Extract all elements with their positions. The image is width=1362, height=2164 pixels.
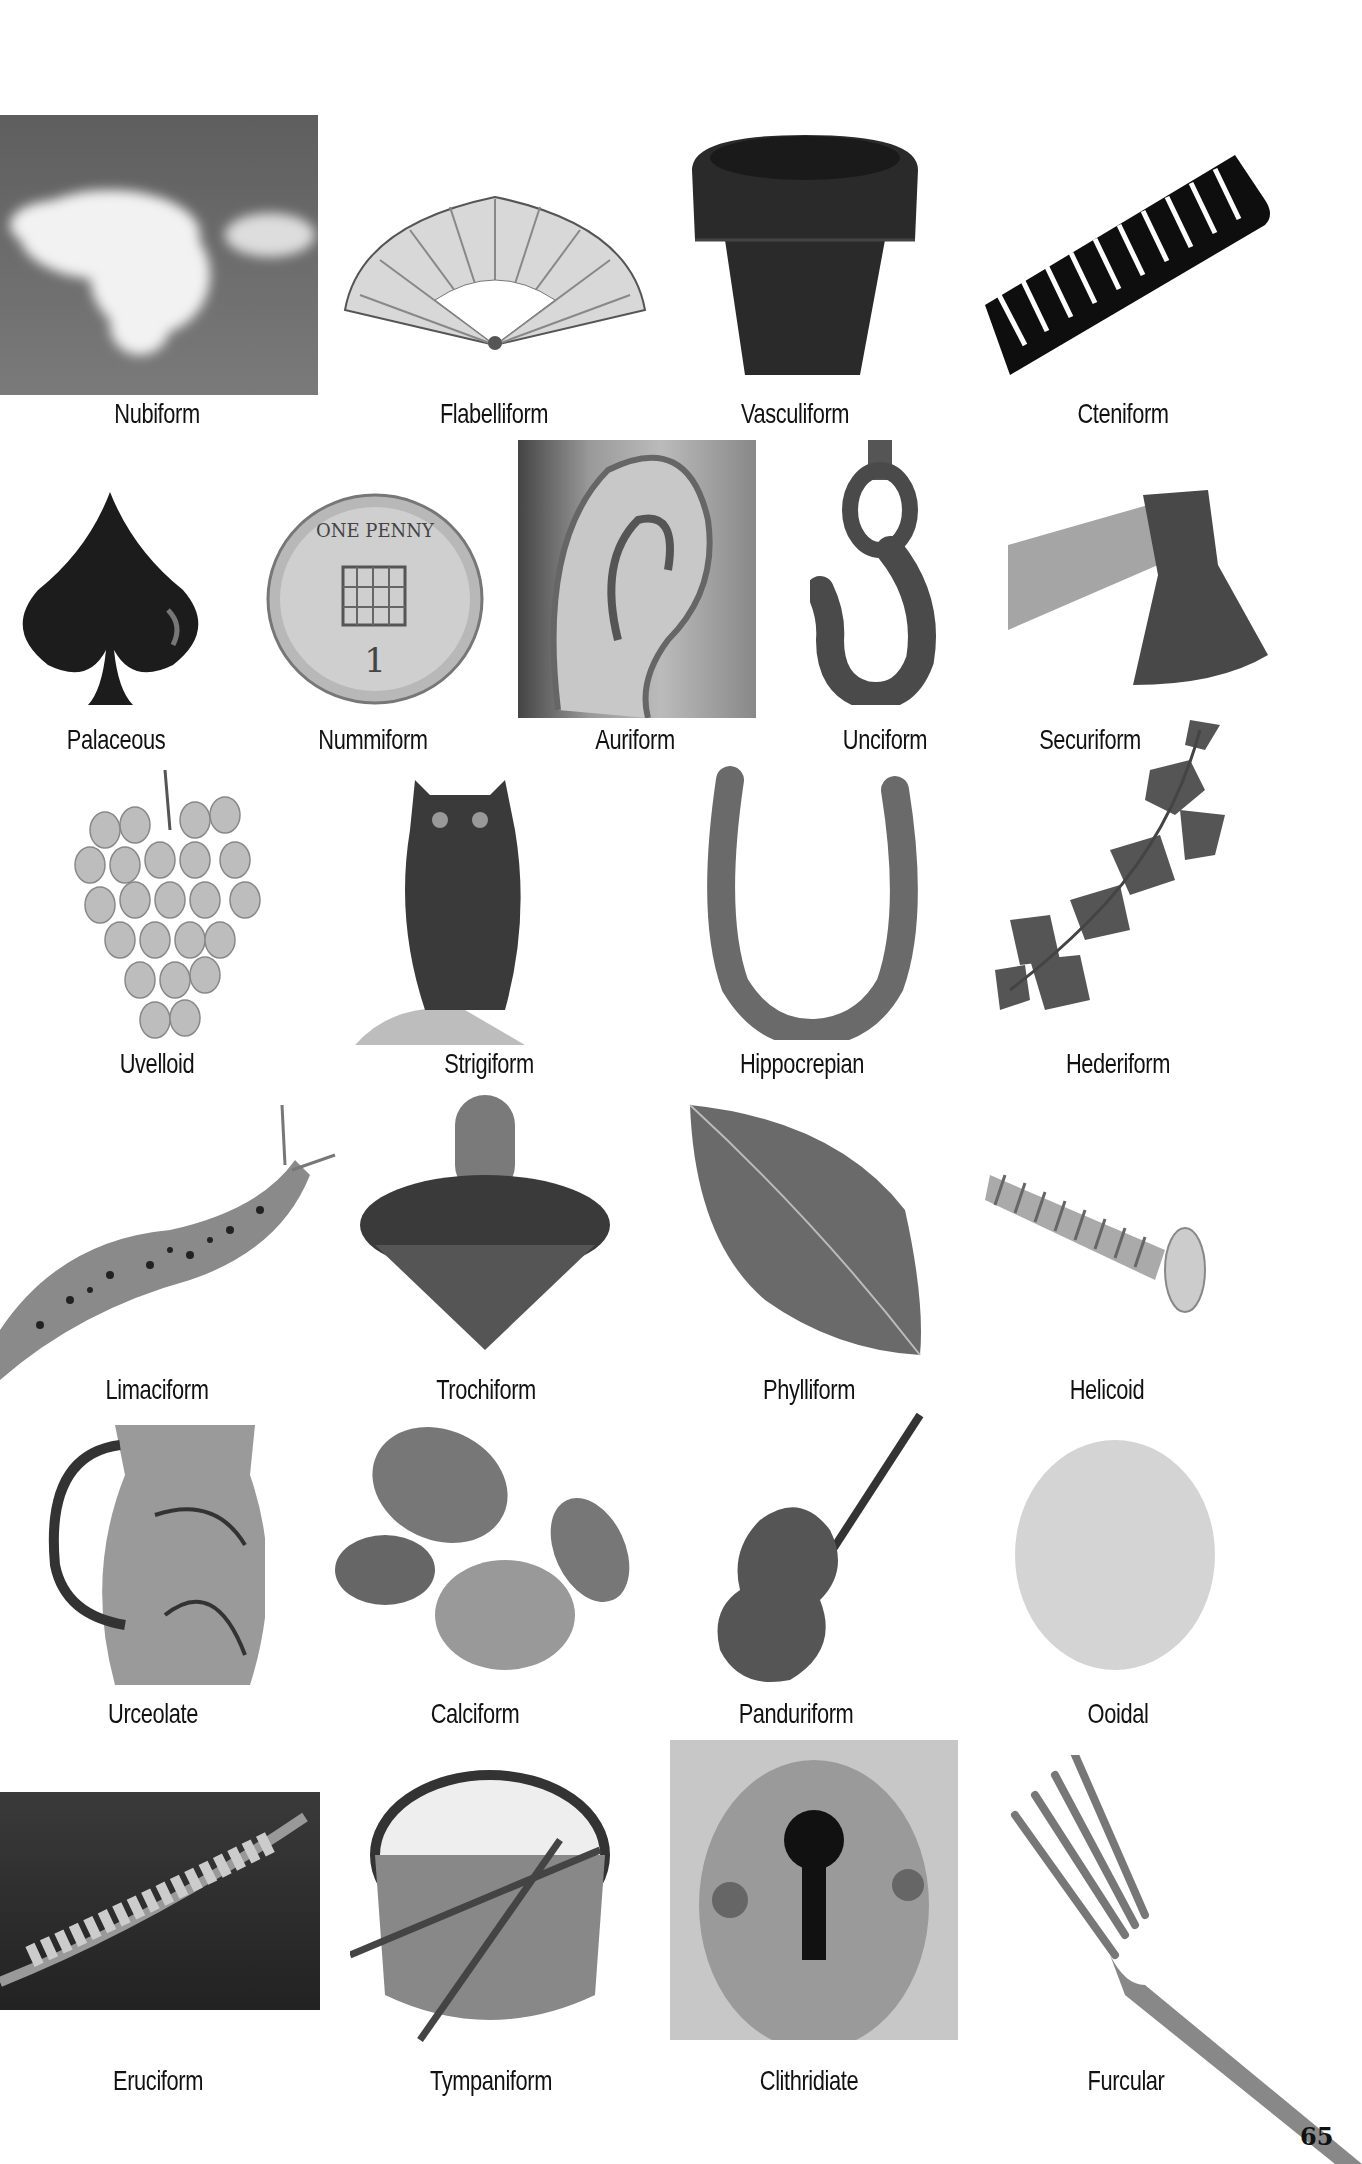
hook-image: [810, 440, 970, 705]
label-flabelliform: Flabelliform: [425, 398, 564, 430]
label-vasculiform: Vasculiform: [726, 398, 865, 430]
label-panduriform: Panduriform: [722, 1698, 869, 1730]
label-helicoid: Helicoid: [1059, 1374, 1155, 1406]
slug-image: [0, 1100, 340, 1380]
label-auriform: Auriform: [584, 724, 686, 756]
coin-value: 1: [364, 640, 386, 680]
label-hederiform: Hederiform: [1051, 1048, 1184, 1080]
label-nubiform: Nubiform: [102, 398, 212, 430]
penny-coin-image: ONE PENNY 1: [265, 492, 485, 707]
ear-image: [518, 440, 756, 718]
page-number: 65: [1300, 2122, 1333, 2151]
screw-image: [985, 1170, 1235, 1320]
label-trochiform: Trochiform: [422, 1374, 550, 1406]
keyhole-image: [670, 1740, 958, 2040]
leaf-image: [685, 1100, 925, 1360]
label-phylliform: Phylliform: [750, 1374, 868, 1406]
label-furcular: Furcular: [1077, 2065, 1176, 2097]
fork-image: [995, 1755, 1362, 2164]
fan-image: [340, 185, 650, 355]
label-unciform: Unciform: [831, 724, 939, 756]
label-uvelloid: Uvelloid: [109, 1048, 205, 1080]
grapes-image: [55, 770, 275, 1050]
label-clithridiate: Clithridiate: [746, 2065, 872, 2097]
label-ooidal: Ooidal: [1079, 1698, 1157, 1730]
ivy-image: [990, 720, 1265, 1040]
comb-image: [985, 135, 1275, 380]
flower-pot-image: [690, 130, 920, 380]
spinning-top-image: [355, 1095, 615, 1355]
label-hippocrepian: Hippocrepian: [723, 1048, 882, 1080]
caterpillar-image: [0, 1792, 320, 2010]
spade-image: [18, 490, 203, 710]
label-urceolate: Urceolate: [95, 1698, 210, 1730]
axe-image: [1008, 485, 1283, 690]
owl-image: [355, 770, 575, 1045]
label-palaceous: Palaceous: [53, 724, 179, 756]
horseshoe-image: [705, 765, 920, 1040]
violin-image: [700, 1410, 940, 1690]
pebbles-image: [330, 1420, 640, 1680]
coin-text: ONE PENNY: [316, 520, 435, 541]
label-nummiform: Nummiform: [303, 724, 443, 756]
label-tympaniform: Tympaniform: [413, 2065, 569, 2097]
label-eruciform: Eruciform: [100, 2065, 215, 2097]
egg-image: [1005, 1435, 1225, 1685]
cloud-image: [0, 115, 318, 395]
label-limaciform: Limaciform: [91, 1374, 223, 1406]
drum-image: [350, 1755, 640, 2045]
label-cteniform: Cteniform: [1065, 398, 1182, 430]
label-calciform: Calciform: [418, 1698, 532, 1730]
pitcher-image: [15, 1415, 265, 1695]
label-strigiform: Strigiform: [432, 1048, 547, 1080]
